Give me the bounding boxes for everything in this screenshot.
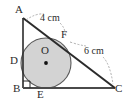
right-angle-mark [23, 81, 30, 88]
center-label-O: O [41, 45, 49, 56]
center-point-dot [44, 61, 48, 65]
geometry-figure: A B C D E F O 4 cm 6 cm [0, 0, 130, 106]
vertex-label-B: B [13, 83, 20, 94]
vertex-label-A: A [15, 4, 23, 15]
vertex-label-C: C [115, 83, 122, 94]
tangent-label-F: F [61, 29, 67, 40]
tangent-label-E: E [37, 89, 44, 100]
measurement-label-fc: 6 cm [84, 46, 104, 56]
measurement-label-af: 4 cm [40, 13, 60, 23]
tangent-label-D: D [10, 55, 18, 66]
